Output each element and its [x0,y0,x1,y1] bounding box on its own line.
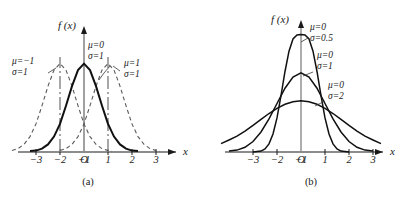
annotation-b-sigma-one-mu: μ=0 [317,50,333,61]
annotation-b-sigma-two-sigma: σ=2 [328,91,344,102]
panel-a-plot [0,0,207,201]
x-axis-label-a: x [183,145,188,157]
tick-label-b-5: 2 [341,154,357,165]
tick-label-a-0: −3 [26,154,46,165]
tick-label-b-0: −3 [243,154,263,165]
annotation-a-right: μ=1 σ=1 [124,58,140,80]
tick-label-a-5: 2 [124,154,140,165]
y-axis-b [298,20,304,152]
tick-label-b-origin: O [293,154,309,165]
annotation-a-left: μ=−1 σ=1 [12,56,34,78]
x-axis-label-b: x [390,145,395,157]
tick-label-b-1: −2 [267,154,287,165]
caption-a: (a) [70,176,106,187]
annotation-b-sigma-two-mu: μ=0 [328,80,344,91]
panel-a: f (x) x −3 −2 −1 O 1 2 3 μ=−1 σ=1 μ=0 σ=… [0,0,207,201]
annotation-a-center: μ=0 σ=1 [88,40,104,62]
y-axis-label-b: f (x) [271,13,289,25]
annotation-b-sigma-two: μ=0 σ=2 [328,80,344,102]
tick-label-b-4: 1 [317,154,333,165]
tick-label-a-4: 1 [100,154,116,165]
annotation-b-sigma-half-mu: μ=0 [310,22,333,33]
annotation-b-sigma-one: μ=0 σ=1 [317,50,333,72]
annotation-a-right-sigma: σ=1 [124,69,140,80]
annotation-a-center-mu: μ=0 [88,40,104,51]
tick-label-a-1: −2 [50,154,70,165]
tick-label-a-6: 3 [148,154,164,165]
annotation-a-left-mu: μ=−1 [12,56,34,67]
panel-b: f (x) x −3 −2 −1 O 1 2 3 μ=0 σ=0.5 μ=0 σ… [207,0,414,201]
annotation-b-sigma-half-sigma: σ=0.5 [310,33,333,44]
annotation-b-sigma-half: μ=0 σ=0.5 [310,22,333,44]
annotation-a-right-mu: μ=1 [124,58,140,69]
y-axis-label-a: f (x) [58,19,76,31]
y-axis-a [81,26,87,152]
annotation-a-center-sigma: σ=1 [88,51,104,62]
tick-label-a-origin: O [76,154,92,165]
tick-label-b-6: 3 [365,154,381,165]
caption-b: (b) [293,176,329,187]
figure-normal-distributions: f (x) x −3 −2 −1 O 1 2 3 μ=−1 σ=1 μ=0 σ=… [0,0,414,201]
annotation-b-sigma-one-sigma: σ=1 [317,61,333,72]
annotation-a-left-sigma: σ=1 [12,67,34,78]
